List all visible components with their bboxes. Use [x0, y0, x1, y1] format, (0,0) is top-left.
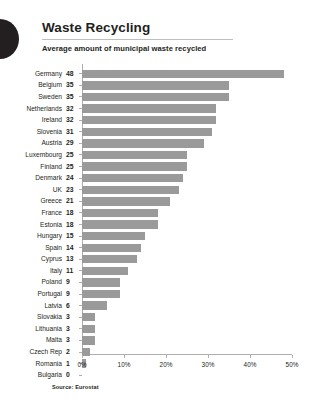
bar-value: 25 [66, 151, 79, 159]
bar-track [82, 335, 318, 347]
bar-track [82, 161, 318, 173]
bar-track [82, 230, 318, 242]
bar [82, 232, 145, 240]
x-axis-tick-label: 40% [244, 361, 257, 368]
bar-label: Denmark [0, 174, 66, 182]
bar-value: 14 [66, 244, 79, 252]
bar [82, 290, 120, 298]
bar-value: 48 [66, 70, 79, 78]
bar-track [82, 138, 318, 150]
chart-page: Waste Recycling Average amount of munici… [0, 0, 318, 412]
bar-value: 24 [66, 174, 79, 182]
bar [82, 174, 183, 182]
bar [82, 255, 137, 263]
bar-value: 15 [66, 232, 79, 240]
bar-track [82, 172, 318, 184]
bar-track [82, 369, 318, 381]
bar [82, 104, 216, 112]
bar [82, 139, 204, 147]
bar-value: 3 [66, 325, 79, 333]
bar-row: Finland25 [0, 161, 318, 173]
bar-value: 2 [66, 348, 79, 356]
bar-track [82, 254, 318, 266]
bar [82, 301, 107, 309]
bar-row: Malta3 [0, 335, 318, 347]
bar-row: Austria29 [0, 138, 318, 150]
bar-label: Latvia [0, 302, 66, 310]
bar-track [82, 114, 318, 126]
bar-value: 6 [66, 302, 79, 310]
bar-label: Czech Rep [0, 348, 66, 356]
bar-row: Netherlands32 [0, 103, 318, 115]
bar-label: Ireland [0, 116, 66, 124]
bar-label: Hungary [0, 232, 66, 240]
bar-label: Luxembourg [0, 151, 66, 159]
bar-track [82, 103, 318, 115]
bar-label: Netherlands [0, 105, 66, 113]
bar-label: Germany [0, 70, 66, 78]
bar-value: 18 [66, 221, 79, 229]
bar-label: Slovenia [0, 128, 66, 136]
source-note: Source: Eurostat [52, 384, 99, 390]
bar-track [82, 126, 318, 138]
bar-row: Spain14 [0, 242, 318, 254]
x-axis-tick [124, 355, 125, 358]
bar [82, 116, 216, 124]
title-divider [42, 39, 233, 40]
x-axis-tick [208, 355, 209, 358]
chart-header: Waste Recycling Average amount of munici… [42, 20, 282, 54]
x-axis-ticks: 0%10%20%30%40%50% [82, 355, 297, 371]
bar-row: Denmark24 [0, 172, 318, 184]
bar-value: 32 [66, 105, 79, 113]
x-axis-tick-label: 10% [118, 361, 131, 368]
bar-track [82, 311, 318, 323]
x-axis-tick-label: 50% [286, 361, 299, 368]
bar [82, 244, 141, 252]
bar-track [82, 149, 318, 161]
bar-value: 29 [66, 139, 79, 147]
x-axis-tick [82, 355, 83, 358]
bar-value: 9 [66, 278, 79, 286]
bar [82, 313, 95, 321]
bar-track [82, 277, 318, 289]
bar-track [82, 288, 318, 300]
bar-track [82, 323, 318, 335]
bar-row: Luxembourg25 [0, 149, 318, 161]
bar-row: Lithuania3 [0, 323, 318, 335]
bar-track [82, 91, 318, 103]
bar-label: Lithuania [0, 325, 66, 333]
bar-row: Estonia18 [0, 219, 318, 231]
bar-value: 3 [66, 313, 79, 321]
bar-label: Portugal [0, 290, 66, 298]
bar-label: Greece [0, 197, 66, 205]
page-title: Waste Recycling [42, 20, 282, 36]
bar-row: Hungary15 [0, 230, 318, 242]
bar-label: Cyprus [0, 255, 66, 263]
bar-row: Poland9 [0, 277, 318, 289]
bar-track [82, 207, 318, 219]
bar-label: Austria [0, 139, 66, 147]
bar-value: 11 [66, 267, 79, 275]
bar-track [82, 80, 318, 92]
bar [82, 267, 128, 275]
bar-label: Belgium [0, 81, 66, 89]
bar-label: Slovakia [0, 313, 66, 321]
x-axis-tick-label: 30% [202, 361, 215, 368]
bar-row: Slovakia3 [0, 311, 318, 323]
bar-row: France18 [0, 207, 318, 219]
bar [82, 93, 229, 101]
bar-chart: Germany48Belgium35Sweden35Netherlands32I… [0, 64, 318, 374]
bar [82, 70, 284, 78]
bar-label: Spain [0, 244, 66, 252]
bar [82, 186, 179, 194]
bar-row: Italy11 [0, 265, 318, 277]
bar-row: Greece21 [0, 196, 318, 208]
bar-label: Romania [0, 360, 66, 368]
bar-rows: Germany48Belgium35Sweden35Netherlands32I… [0, 68, 318, 381]
bar [82, 209, 158, 217]
bar [82, 81, 229, 89]
bar-track [82, 68, 318, 80]
bar-label: Finland [0, 163, 66, 171]
bar-value: 35 [66, 93, 79, 101]
bar [82, 151, 187, 159]
